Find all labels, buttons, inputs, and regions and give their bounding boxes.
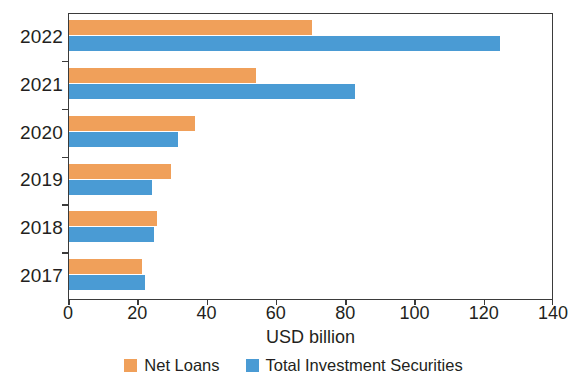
bar-chart: 202220212020201920182017 020406080100120… bbox=[0, 0, 587, 381]
bar-2019-total-investment-securities bbox=[69, 180, 152, 195]
bar-2020-net-loans bbox=[69, 116, 195, 131]
bar-2017-net-loans bbox=[69, 259, 142, 274]
x-axis-tick-labels: 020406080100120140 bbox=[68, 304, 553, 328]
x-axis-tick-label-80: 80 bbox=[335, 304, 355, 322]
legend-swatch-icon bbox=[246, 359, 259, 372]
bar-group-2018 bbox=[69, 205, 552, 253]
legend-label: Net Loans bbox=[144, 357, 219, 374]
bar-group-2022 bbox=[69, 14, 552, 62]
y-axis-minor-tick bbox=[62, 157, 68, 159]
bar-2021-net-loans bbox=[69, 68, 256, 83]
bar-2017-total-investment-securities bbox=[69, 275, 145, 290]
x-axis-tick-label-120: 120 bbox=[469, 304, 499, 322]
x-axis-tick-label-0: 0 bbox=[63, 304, 73, 322]
y-axis-tick-label-2020: 2020 bbox=[3, 123, 63, 142]
y-axis-tick-label-2017: 2017 bbox=[3, 266, 63, 285]
chart-legend: Net LoansTotal Investment Securities bbox=[0, 357, 587, 374]
bar-2022-total-investment-securities bbox=[69, 36, 500, 51]
x-axis-tick-label-100: 100 bbox=[399, 304, 429, 322]
bar-group-2021 bbox=[69, 62, 552, 110]
bar-2022-net-loans bbox=[69, 20, 312, 35]
legend-item: Total Investment Securities bbox=[246, 357, 463, 374]
y-axis-minor-tick bbox=[62, 204, 68, 206]
x-axis-tick-label-60: 60 bbox=[266, 304, 286, 322]
bar-group-2019 bbox=[69, 158, 552, 206]
bar-2018-total-investment-securities bbox=[69, 227, 154, 242]
y-axis-minor-tick bbox=[62, 252, 68, 254]
x-axis-tick-label-20: 20 bbox=[127, 304, 147, 322]
y-axis-minor-tick bbox=[62, 109, 68, 111]
y-axis-tick-label-2021: 2021 bbox=[3, 75, 63, 94]
legend-label: Total Investment Securities bbox=[266, 357, 463, 374]
plot-area bbox=[68, 13, 553, 300]
x-axis-tick-label-40: 40 bbox=[197, 304, 217, 322]
bar-2020-total-investment-securities bbox=[69, 132, 178, 147]
bar-2018-net-loans bbox=[69, 211, 157, 226]
y-axis-tick-label-2019: 2019 bbox=[3, 170, 63, 189]
y-axis-minor-tick bbox=[62, 61, 68, 63]
x-axis-title: USD billion bbox=[68, 328, 553, 346]
legend-swatch-icon bbox=[124, 359, 137, 372]
bar-group-2020 bbox=[69, 110, 552, 158]
y-axis-tick-label-2018: 2018 bbox=[3, 218, 63, 237]
bar-2021-total-investment-securities bbox=[69, 84, 355, 99]
x-axis-tick-label-140: 140 bbox=[538, 304, 568, 322]
bar-group-2017 bbox=[69, 253, 552, 301]
bar-2019-net-loans bbox=[69, 164, 171, 179]
y-axis-labels: 202220212020201920182017 bbox=[0, 13, 63, 300]
legend-item: Net Loans bbox=[124, 357, 219, 374]
y-axis-tick-label-2022: 2022 bbox=[3, 27, 63, 46]
